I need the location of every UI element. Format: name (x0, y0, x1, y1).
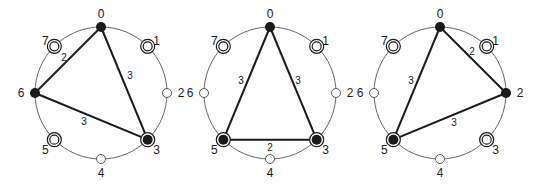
node-4: 4 (266, 155, 275, 181)
edge-weight-label: 3 (81, 116, 87, 127)
node-6: 6 (18, 86, 40, 100)
edge-weight-label: 2 (61, 52, 67, 63)
node-3: 3 (310, 133, 330, 157)
node-0: 0 (96, 7, 106, 32)
node-label: 2 (178, 86, 185, 100)
open-node-icon (332, 89, 341, 98)
node-0: 0 (435, 7, 445, 32)
node-5: 5 (42, 133, 61, 157)
node-2: 2 (163, 86, 185, 100)
node-label: 5 (381, 143, 388, 157)
node-label: 5 (42, 143, 49, 157)
node-label: 0 (98, 7, 105, 21)
node-6: 6 (187, 86, 209, 100)
node-label: 0 (267, 7, 274, 21)
node-label: 4 (437, 166, 444, 180)
filled-node-icon (96, 22, 106, 32)
double-ring-node-inner-icon (482, 42, 491, 51)
node-label: 3 (322, 143, 329, 157)
node-label: 1 (322, 34, 329, 48)
edge-weight-label: 3 (451, 117, 457, 128)
edge-weight-label: 3 (127, 70, 133, 81)
node-label: 7 (211, 34, 218, 48)
edge-weight-label: 2 (267, 142, 273, 153)
node-3: 3 (141, 133, 161, 157)
node-label: 2 (347, 86, 354, 100)
open-node-icon (436, 155, 445, 164)
node-label: 4 (98, 166, 105, 180)
node-2: 2 (332, 86, 354, 100)
node-1: 1 (310, 34, 330, 53)
node-label: 6 (187, 86, 194, 100)
open-node-icon (163, 89, 172, 98)
node-2: 2 (501, 86, 524, 100)
ringed-node-inner-icon (143, 135, 153, 145)
edge-weight-label: 2 (469, 46, 475, 57)
node-7: 7 (42, 34, 61, 53)
edge-weight-label: 3 (295, 75, 301, 86)
ringed-node-inner-icon (312, 135, 322, 145)
node-label: 3 (153, 143, 160, 157)
node-3: 3 (480, 133, 500, 157)
ringed-node-inner-icon (388, 135, 398, 145)
diagram-canvas: 233012345673320123456723301234567 (0, 0, 540, 187)
open-node-icon (200, 89, 209, 98)
node-label: 3 (492, 143, 499, 157)
node-label: 6 (357, 86, 364, 100)
edge-weight-label: 3 (408, 75, 414, 86)
node-7: 7 (211, 34, 230, 53)
double-ring-node-inner-icon (143, 42, 152, 51)
node-label: 4 (267, 166, 274, 180)
double-ring-node-inner-icon (312, 42, 321, 51)
node-label: 1 (153, 34, 160, 48)
node-4: 4 (436, 155, 445, 181)
double-ring-node-inner-icon (219, 42, 228, 51)
filled-node-icon (265, 22, 275, 32)
ring-diagram-2: 33201234567 (187, 7, 354, 180)
node-6: 6 (357, 86, 379, 100)
node-label: 7 (42, 34, 49, 48)
filled-node-icon (30, 88, 40, 98)
node-label: 5 (211, 143, 218, 157)
node-label: 6 (18, 86, 25, 100)
node-label: 2 (517, 86, 524, 100)
filled-node-icon (435, 22, 445, 32)
open-node-icon (97, 155, 106, 164)
double-ring-node-inner-icon (482, 135, 491, 144)
node-label: 0 (437, 7, 444, 21)
ring-diagram-1: 23301234567 (18, 7, 185, 180)
double-ring-node-inner-icon (50, 135, 59, 144)
ring-diagram-3: 23301234567 (357, 7, 524, 180)
filled-node-icon (501, 88, 511, 98)
node-0: 0 (265, 7, 275, 32)
node-7: 7 (381, 34, 400, 53)
node-1: 1 (480, 34, 500, 53)
node-4: 4 (97, 155, 106, 181)
node-1: 1 (141, 34, 161, 53)
node-label: 1 (492, 34, 499, 48)
node-5: 5 (381, 133, 400, 157)
double-ring-node-inner-icon (50, 42, 59, 51)
node-5: 5 (211, 133, 230, 157)
open-node-icon (266, 155, 275, 164)
edge-weight-label: 3 (238, 75, 244, 86)
open-node-icon (370, 89, 379, 98)
double-ring-node-inner-icon (389, 42, 398, 51)
ringed-node-inner-icon (218, 135, 228, 145)
node-label: 7 (381, 34, 388, 48)
